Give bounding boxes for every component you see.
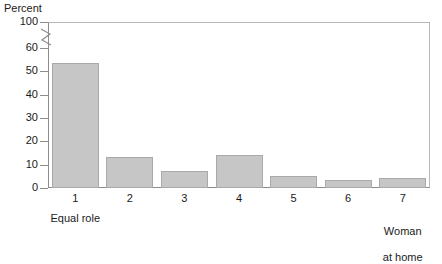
- y-axis-tick-label: 50: [4, 65, 38, 76]
- x-axis-tick-label: 1: [48, 192, 103, 205]
- y-axis-tick-label-wrap: 0: [0, 182, 38, 193]
- bar: [216, 155, 263, 188]
- y-axis-tick: [40, 71, 48, 72]
- category-note-equal-role: Equal role: [30, 212, 120, 225]
- y-axis-tick: [40, 118, 48, 119]
- y-axis-tick: [40, 48, 48, 49]
- category-note-woman-at-home: Woman at home: [358, 212, 442, 264]
- category-note-line1: Woman: [384, 225, 422, 237]
- axis-break-icon: [40, 26, 54, 48]
- y-axis-tick: [40, 188, 48, 189]
- x-axis-tick-label: 3: [157, 192, 212, 205]
- y-axis-tick-label-wrap: 100: [0, 16, 38, 27]
- bar: [379, 178, 426, 188]
- y-axis-tick-label: 40: [4, 89, 38, 100]
- y-axis-tick: [40, 95, 48, 96]
- bar: [52, 63, 99, 188]
- y-axis-tick: [40, 22, 48, 23]
- bar: [106, 157, 153, 189]
- x-axis-tick-label: 6: [321, 192, 376, 205]
- y-axis-tick-label-wrap: 40: [0, 89, 38, 100]
- y-axis-tick: [40, 165, 48, 166]
- y-axis-title: Percent: [4, 2, 42, 14]
- y-axis-tick-label: 10: [4, 159, 38, 170]
- y-axis-tick: [40, 141, 48, 142]
- y-axis-tick-label-wrap: 10: [0, 159, 38, 170]
- y-axis-tick-label-wrap: 50: [0, 65, 38, 76]
- bar: [161, 171, 208, 188]
- y-axis-tick-label: 30: [4, 112, 38, 123]
- bar: [270, 176, 317, 188]
- x-axis-tick-label: 5: [266, 192, 321, 205]
- y-axis-tick-label-wrap: 60: [0, 42, 38, 53]
- y-axis-tick-label: 20: [4, 135, 38, 146]
- y-axis-tick-label: 100: [4, 16, 38, 27]
- bar: [325, 180, 372, 188]
- x-axis-tick-label: 7: [375, 192, 430, 205]
- y-axis-tick-label: 0: [4, 182, 38, 193]
- category-note-line2: at home: [383, 251, 423, 263]
- x-axis-tick-label: 2: [103, 192, 158, 205]
- y-axis-tick-label-wrap: 20: [0, 135, 38, 146]
- y-axis-tick-label-wrap: 30: [0, 112, 38, 123]
- x-axis-tick-label: 4: [212, 192, 267, 205]
- y-axis-tick-label: 60: [4, 42, 38, 53]
